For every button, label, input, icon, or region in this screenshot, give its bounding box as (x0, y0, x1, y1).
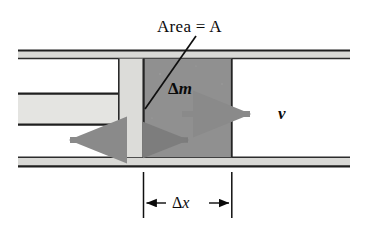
piston-shaft-body (18, 94, 119, 125)
piston-shaft (18, 94, 119, 125)
piston-head-body (119, 59, 144, 158)
velocity-label: v (278, 105, 286, 122)
delta-x-delta-symbol: Δ (172, 194, 182, 211)
delta-m-variable: m (179, 79, 192, 98)
delta-x-label: Δx (172, 195, 189, 211)
delta-m-delta-symbol: Δ (168, 79, 179, 98)
delta-m-label: Δm (168, 80, 192, 97)
delta-x-variable: x (182, 194, 189, 211)
fluid-element-diagram: Area = A Δm v Δx (0, 0, 367, 234)
piston-head (119, 59, 144, 158)
area-label: Area = A (157, 18, 222, 35)
pipe-bottom-wall (18, 157, 350, 166)
